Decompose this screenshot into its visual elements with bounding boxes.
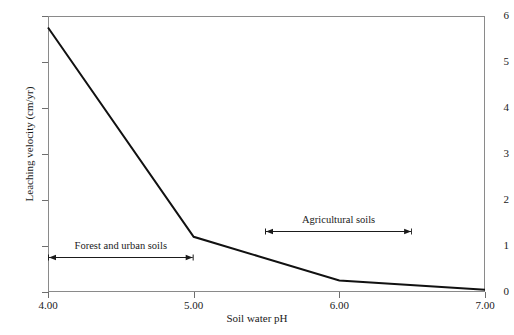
x-tick-label: 7.00 <box>457 300 513 311</box>
leaching-velocity-chart: 0123456 4.005.006.007.00 Leaching veloci… <box>0 0 514 335</box>
y-tick-mark <box>42 62 48 63</box>
y-tick-label: 3 <box>478 148 514 159</box>
y-axis-title: Leaching velocity (cm/yr) <box>23 19 35 269</box>
y-tick-label: 1 <box>478 240 514 251</box>
annotation-label: Agricultural soils <box>265 214 412 226</box>
y-tick-label: 2 <box>478 194 514 205</box>
y-tick-label: 0 <box>478 286 514 297</box>
x-tick-mark <box>48 292 49 298</box>
y-tick-mark <box>42 154 48 155</box>
x-tick-label: 5.00 <box>166 300 222 311</box>
y-tick-label: 5 <box>478 56 514 67</box>
y-tick-mark <box>42 16 48 17</box>
x-tick-mark <box>485 292 486 298</box>
x-tick-mark <box>339 292 340 298</box>
x-tick-mark <box>194 292 195 298</box>
y-tick-label: 6 <box>478 10 514 21</box>
y-tick-mark <box>42 200 48 201</box>
annotation-double-arrow-icon <box>48 253 194 262</box>
y-tick-mark <box>42 108 48 109</box>
annotation-double-arrow-icon <box>265 227 412 236</box>
x-axis-title: Soil water pH <box>0 312 514 324</box>
x-tick-label: 6.00 <box>311 300 367 311</box>
annotation-label: Forest and urban soils <box>48 240 194 252</box>
x-tick-label: 4.00 <box>20 300 76 311</box>
y-tick-label: 4 <box>478 102 514 113</box>
